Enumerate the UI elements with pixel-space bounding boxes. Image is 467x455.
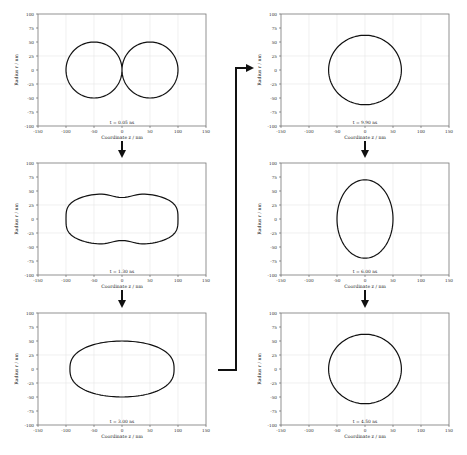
x-tick-label: 50 [390, 129, 396, 134]
y-tick-label: 50 [272, 40, 278, 45]
y-tick-label: 50 [29, 40, 35, 45]
x-tick-label: 100 [417, 278, 425, 283]
x-tick-label: -150 [33, 129, 43, 134]
y-tick-label: 75 [272, 26, 278, 31]
x-tick-label: 100 [174, 129, 182, 134]
y-tick-label: 100 [26, 161, 34, 166]
y-tick-label: -100 [268, 423, 278, 428]
y-tick-label: -50 [27, 395, 34, 400]
x-axis-label: Coordinate z / nm [101, 434, 143, 439]
y-tick-label: -25 [27, 82, 34, 87]
y-tick-label: 25 [272, 203, 278, 208]
x-tick-label: -100 [61, 278, 71, 283]
y-tick-label: -50 [27, 245, 34, 250]
x-tick-label: 150 [445, 129, 453, 134]
x-axis-label: Coordinate z / nm [101, 284, 143, 289]
y-tick-label: 0 [274, 217, 277, 222]
y-tick-label: 50 [29, 339, 35, 344]
x-tick-label: 150 [202, 129, 210, 134]
time-label: t = 1.30 ns [110, 269, 135, 274]
y-tick-label: 100 [269, 311, 277, 316]
plot-panel-p1: 1007550250-25-50-75-100-150-100-50050100… [14, 12, 210, 140]
x-tick-label: 150 [445, 278, 453, 283]
x-tick-label: 150 [202, 278, 210, 283]
y-tick-label: -75 [27, 110, 34, 115]
y-tick-label: -75 [27, 409, 34, 414]
y-axis-label: Radius r / nm [257, 203, 262, 235]
y-tick-label: -75 [270, 409, 277, 414]
y-tick-label: 0 [31, 217, 34, 222]
y-tick-label: 25 [29, 353, 35, 358]
y-tick-label: -25 [27, 231, 34, 236]
y-tick-label: 25 [272, 353, 278, 358]
y-tick-label: -50 [270, 395, 277, 400]
y-tick-label: 50 [29, 189, 35, 194]
x-tick-label: 50 [390, 278, 396, 283]
y-tick-label: -75 [270, 110, 277, 115]
x-tick-label: -150 [33, 428, 43, 433]
y-tick-label: -100 [268, 124, 278, 129]
y-tick-label: 100 [26, 12, 34, 17]
plot-panel-p3: 1007550250-25-50-75-100-150-100-50050100… [14, 311, 210, 439]
x-axis-label: Coordinate z / nm [344, 434, 386, 439]
connector-arrow-icon [218, 68, 252, 370]
y-tick-label: 25 [272, 54, 278, 59]
x-tick-label: 0 [364, 129, 367, 134]
x-tick-label: 100 [174, 278, 182, 283]
x-tick-label: -50 [334, 278, 341, 283]
y-tick-label: 0 [31, 367, 34, 372]
y-tick-label: 100 [26, 311, 34, 316]
x-tick-label: 0 [364, 278, 367, 283]
x-tick-label: -50 [334, 428, 341, 433]
x-tick-label: 50 [147, 428, 153, 433]
x-tick-label: -50 [91, 278, 98, 283]
x-tick-label: 0 [121, 129, 124, 134]
x-tick-label: 100 [417, 428, 425, 433]
y-tick-label: 25 [29, 54, 35, 59]
x-tick-label: 0 [121, 278, 124, 283]
y-tick-label: -50 [270, 245, 277, 250]
x-tick-label: -50 [91, 129, 98, 134]
y-axis-label: Radius r / nm [257, 54, 262, 86]
y-axis-label: Radius r / nm [257, 353, 262, 385]
x-tick-label: -50 [91, 428, 98, 433]
y-tick-label: 75 [272, 175, 278, 180]
y-tick-label: -25 [270, 82, 277, 87]
time-label: t = 3.00 ns [110, 419, 135, 424]
x-axis-label: Coordinate z / nm [344, 135, 386, 140]
x-tick-label: 50 [147, 278, 153, 283]
y-tick-label: -50 [27, 96, 34, 101]
plot-panel-p2: 1007550250-25-50-75-100-150-100-50050100… [14, 161, 210, 289]
x-tick-label: -150 [276, 428, 286, 433]
x-axis-label: Coordinate z / nm [344, 284, 386, 289]
y-tick-label: -25 [270, 231, 277, 236]
y-axis-label: Radius r / nm [14, 54, 19, 86]
time-label: t = 4.50 ns [353, 419, 378, 424]
x-tick-label: 150 [202, 428, 210, 433]
x-tick-label: 100 [417, 129, 425, 134]
x-tick-label: -150 [276, 278, 286, 283]
x-axis-label: Coordinate z / nm [101, 135, 143, 140]
y-tick-label: -25 [27, 381, 34, 386]
x-tick-label: 0 [364, 428, 367, 433]
plot-panel-p5: 1007550250-25-50-75-100-150-100-50050100… [257, 161, 453, 289]
y-tick-label: 0 [31, 68, 34, 73]
y-tick-label: -25 [270, 381, 277, 386]
y-tick-label: -100 [25, 423, 35, 428]
x-tick-label: -100 [304, 129, 314, 134]
y-tick-label: -100 [268, 273, 278, 278]
plot-panel-p6: 1007550250-25-50-75-100-150-100-50050100… [257, 311, 453, 439]
x-tick-label: 50 [147, 129, 153, 134]
y-tick-label: 75 [29, 175, 35, 180]
x-tick-label: 50 [390, 428, 396, 433]
x-tick-label: 0 [121, 428, 124, 433]
y-tick-label: -100 [25, 273, 35, 278]
y-tick-label: 50 [272, 339, 278, 344]
y-tick-label: 0 [274, 68, 277, 73]
time-label: t = 9.90 ns [353, 120, 378, 125]
time-label: t = 0.05 ns [110, 120, 135, 125]
x-tick-label: -150 [276, 129, 286, 134]
y-tick-label: 0 [274, 367, 277, 372]
y-tick-label: 75 [272, 325, 278, 330]
x-tick-label: -100 [304, 278, 314, 283]
